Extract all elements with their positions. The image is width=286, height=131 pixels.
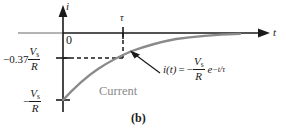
equation-exponent: −t/τ <box>212 66 225 74</box>
equation-callout: i(t)=−VsRe−t/τ <box>163 57 225 83</box>
y-tick-label-037: −0.37VsR <box>3 47 40 73</box>
tau-tick-label: τ <box>120 13 124 23</box>
y-tick-037-prefix: −0.37 <box>3 54 28 65</box>
figure-caption: (b) <box>131 112 146 124</box>
equation-fraction: VsR <box>193 56 205 82</box>
y-tick-initial-fraction: VsR <box>29 88 41 114</box>
equation-equals: = <box>176 64 186 75</box>
equation-denominator: R <box>193 70 205 82</box>
y-tick-037-denominator: R <box>28 60 40 72</box>
y-tick-label-initial: −VsR <box>23 89 41 115</box>
i-axis-label: i <box>66 1 69 12</box>
t-axis-arrowhead <box>258 29 270 38</box>
y-tick-initial-denominator: R <box>29 102 41 114</box>
origin-label: 0 <box>66 34 72 46</box>
equation-exp-base: e <box>205 64 213 75</box>
t-axis-label: t <box>273 27 276 38</box>
equation-numerator: Vs <box>193 56 205 70</box>
current-curve-label: Current <box>99 85 137 98</box>
equation-lhs: i(t) <box>163 64 176 75</box>
y-tick-initial-numerator: Vs <box>29 88 41 102</box>
figure-container: i t 0 τ −0.37VsR −VsR Current i(t)=−VsRe… <box>0 0 286 131</box>
y-tick-037-numerator: Vs <box>28 46 40 60</box>
y-tick-037-fraction: VsR <box>28 46 40 72</box>
